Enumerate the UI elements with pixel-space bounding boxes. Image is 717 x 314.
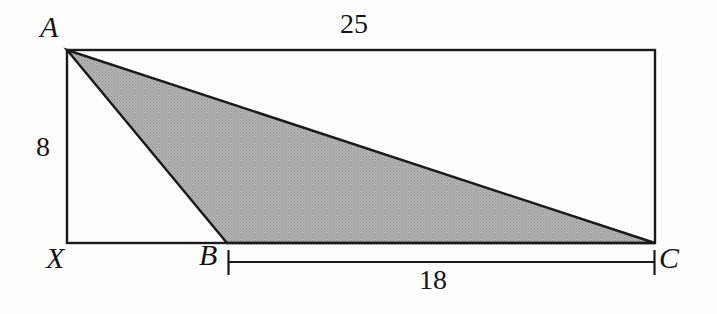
geometry-figure: A X B C 25 8 18 — [0, 0, 717, 314]
vertex-label-b: B — [199, 240, 217, 270]
shaded-triangle — [67, 50, 655, 243]
vertex-label-c: C — [659, 243, 679, 273]
measure-label-top: 25 — [340, 10, 368, 38]
geometry-canvas — [0, 0, 717, 314]
vertex-label-a: A — [40, 12, 58, 42]
measure-label-left: 8 — [36, 133, 50, 161]
vertex-label-x: X — [46, 243, 64, 273]
measure-label-bottom: 18 — [419, 266, 447, 294]
